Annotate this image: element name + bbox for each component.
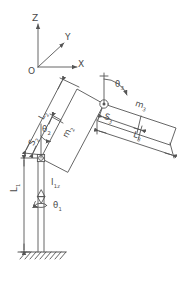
coordinate-frame [38, 24, 77, 67]
link-1-body [38, 158, 44, 252]
label-L1: L1 [10, 184, 21, 193]
axis-label-y: Y [65, 33, 71, 42]
label-theta1: θ1 [53, 201, 62, 212]
inertia-spindle-symbol [37, 190, 44, 203]
dimension-L1 [21, 158, 40, 252]
axis-label-z: Z [32, 14, 38, 23]
label-I1z: I1z [51, 178, 60, 189]
label-theta3: θ3 [115, 80, 124, 91]
diagram-canvas: Z Y X O L1 I1z θ1 L2 S2 m2 θ2 θ3 S3 m3 L… [0, 0, 188, 282]
axis-label-origin: O [28, 67, 35, 76]
label-theta2: θ2 [42, 125, 51, 136]
ground-support [18, 252, 66, 259]
axis-label-x: X [78, 60, 84, 69]
